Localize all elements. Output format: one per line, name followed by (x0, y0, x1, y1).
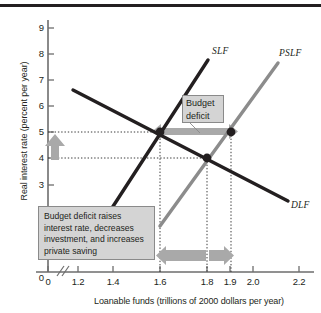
x-tick-label-2-0: 2.0 (241, 276, 265, 287)
curve-label-slf: SLF (212, 46, 228, 56)
x-tick-label-1-9: 1.9 (218, 276, 242, 287)
explanation-line-4: private saving (44, 246, 149, 258)
curve-label-pslf: PSLF (279, 48, 301, 58)
x-tick-label-1-6: 1.6 (148, 276, 172, 287)
explanation-line-2: interest rate, decreases (44, 223, 149, 235)
y-tick-label-9: 9 (32, 22, 44, 33)
equilibrium-dot-initial (156, 128, 165, 137)
curve-label-dlf: DLF (291, 200, 310, 210)
x-tick-label-2-2: 2.2 (287, 276, 311, 287)
loanable-funds-market-figure: 9 8 7 6 5 4 3 2 1 0 0 1.2 1.4 1.6 1.8 1.… (0, 0, 321, 313)
equilibrium-dot-total (227, 128, 236, 137)
chart-plot-area (0, 0, 321, 313)
x-tick-label-0: 0 (38, 276, 58, 287)
explanation-line-1: Budget deficit raises (44, 211, 149, 223)
budget-deficit-callout: Budget deficit (182, 95, 224, 123)
x-tick-label-1-2: 1.2 (66, 276, 90, 287)
y-tick-label-4: 4 (32, 152, 44, 163)
investment-decrease-arrow (156, 246, 206, 265)
y-axis-title: Real interest rate (percent per year) (19, 51, 29, 211)
explanation-line-3: investment, and increases (44, 234, 149, 246)
equilibrium-dot-private-saving (203, 154, 212, 163)
y-tick-label-8: 8 (32, 48, 44, 59)
y-tick-label-7: 7 (32, 74, 44, 85)
x-tick-label-1-8: 1.8 (195, 276, 219, 287)
x-axis-ticks (48, 266, 299, 272)
x-tick-label-1-4: 1.4 (101, 276, 125, 287)
explanation-callout: Budget deficit raises interest rate, dec… (38, 206, 155, 260)
budget-deficit-callout-line2: deficit (186, 110, 220, 123)
budget-deficit-callout-line1: Budget (186, 97, 220, 110)
y-tick-label-5: 5 (32, 126, 44, 137)
y-tick-label-6: 6 (32, 100, 44, 111)
y-tick-label-3: 3 (32, 179, 44, 190)
curve-dlf (73, 90, 288, 201)
x-axis-break-marks (57, 266, 69, 276)
x-axis-title: Loanable funds (trillions of 2000 dollar… (64, 296, 314, 306)
private-saving-increase-arrow (209, 246, 234, 265)
